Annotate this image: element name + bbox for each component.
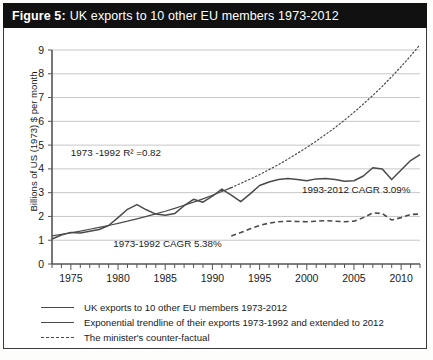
svg-text:2005: 2005	[342, 272, 366, 284]
y-axis-title: Billions of US (1973) $ per month	[28, 32, 39, 252]
legend-swatch-dashed-icon	[41, 333, 74, 342]
svg-text:1995: 1995	[248, 272, 272, 284]
legend-item-label: The minister's counter-factual	[84, 332, 210, 343]
svg-text:8: 8	[38, 67, 44, 79]
svg-text:1: 1	[38, 234, 44, 246]
legend-item: The minister's counter-factual	[41, 330, 427, 345]
svg-text:3: 3	[38, 186, 44, 198]
source-note-cutoff	[4, 351, 429, 360]
svg-text:2010: 2010	[389, 272, 413, 284]
svg-text:6: 6	[38, 115, 44, 127]
chart-plot-area: Billions of US (1973) $ per month 012345…	[3, 28, 427, 296]
svg-text:1993-2012 CAGR 3.09%: 1993-2012 CAGR 3.09%	[302, 184, 411, 195]
legend-swatch-line-icon	[41, 303, 74, 312]
figure-number: Figure 5:	[12, 9, 66, 23]
figure-container: Figure 5: UK exports to 10 other EU memb…	[0, 0, 433, 360]
legend-item: UK exports to 10 other EU members 1973-2…	[41, 300, 427, 315]
figure-title: UK exports to 10 other EU members 1973-2…	[70, 9, 339, 23]
svg-text:0: 0	[38, 258, 44, 270]
svg-text:4: 4	[38, 162, 44, 174]
svg-text:9: 9	[38, 44, 44, 56]
line-chart: 0123456789197519801985199019952000200520…	[3, 28, 427, 296]
svg-text:2: 2	[38, 210, 44, 222]
figure-title-bar: Figure 5: UK exports to 10 other EU memb…	[3, 3, 427, 28]
svg-text:1975: 1975	[59, 272, 83, 284]
svg-text:1990: 1990	[201, 272, 225, 284]
svg-text:5: 5	[38, 139, 44, 151]
svg-text:1980: 1980	[106, 272, 130, 284]
legend-item: Exponential trendline of their exports 1…	[41, 315, 427, 330]
svg-text:1985: 1985	[154, 272, 178, 284]
svg-text:1973-1992 CAGR 5.38%: 1973-1992 CAGR 5.38%	[113, 238, 222, 249]
legend-item-label: Exponential trendline of their exports 1…	[84, 317, 384, 328]
chart-legend: UK exports to 10 other EU members 1973-2…	[3, 296, 427, 346]
svg-text:2000: 2000	[295, 272, 319, 284]
svg-text:7: 7	[38, 91, 44, 103]
legend-item-label: UK exports to 10 other EU members 1973-2…	[84, 302, 287, 313]
svg-text:1973 -1992 R² =0.82: 1973 -1992 R² =0.82	[71, 147, 161, 158]
legend-swatch-line-icon	[41, 318, 74, 327]
